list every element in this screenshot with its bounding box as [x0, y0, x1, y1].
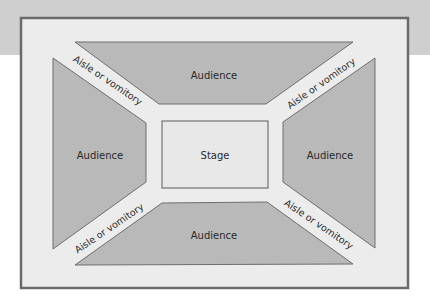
audience-left-label: Audience: [77, 150, 123, 161]
theater-diagram: Audience Audience Audience Audience Stag…: [0, 0, 430, 305]
audience-bottom-label: Audience: [191, 230, 237, 241]
audience-top-label: Audience: [191, 70, 237, 81]
stage-label: Stage: [201, 150, 230, 161]
audience-right-label: Audience: [307, 150, 353, 161]
